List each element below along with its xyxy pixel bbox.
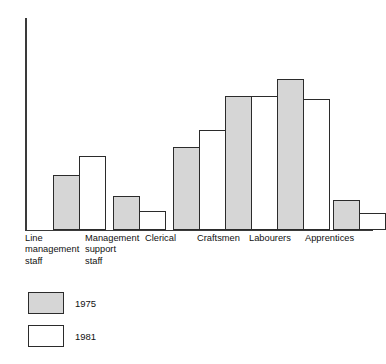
category-label-2: Clerical: [145, 233, 176, 244]
bar-clerical-1975: [173, 147, 200, 230]
bar-craftsmen-1975: [225, 96, 252, 230]
category-label-4: Labourers: [249, 233, 291, 244]
chart-legend: 19751981: [28, 292, 188, 354]
bar-apprentices-1975: [333, 200, 360, 230]
category-label-3: Craftsmen: [197, 233, 240, 244]
bar-management-support-staff-1975: [113, 196, 140, 230]
legend-swatch-1981: [28, 325, 64, 347]
plot-area: [25, 18, 373, 230]
bar-labourers-1981: [303, 99, 330, 230]
category-label-5: Apprentices: [305, 233, 354, 244]
bar-craftsmen-1981: [251, 96, 278, 230]
bar-apprentices-1981: [359, 213, 386, 230]
bar-line-management-staff-1981: [79, 156, 106, 230]
legend-label-1981: 1981: [75, 331, 96, 342]
category-labels: Line management staffManagement support …: [0, 233, 378, 275]
bar-clerical-1981: [199, 130, 226, 230]
category-label-1: Management support staff: [85, 233, 139, 267]
category-label-0: Line management staff: [25, 233, 79, 267]
bar-labourers-1975: [277, 79, 304, 230]
bar-management-support-staff-1981: [139, 211, 166, 230]
legend-swatch-1975: [28, 292, 64, 314]
bar-line-management-staff-1975: [53, 175, 80, 230]
legend-label-1975: 1975: [75, 298, 96, 309]
